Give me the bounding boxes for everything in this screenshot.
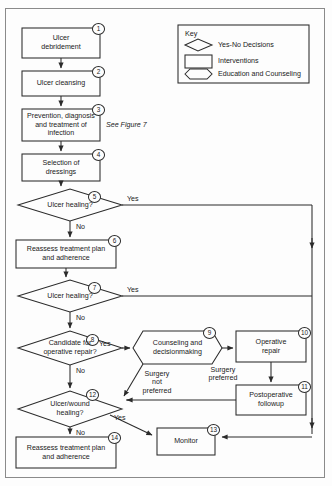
surgery-preferred-line1: Surgery — [198, 366, 248, 374]
node-1-shape — [22, 28, 100, 58]
edge-label-no-12: No — [76, 429, 85, 437]
node-14-shape — [16, 437, 116, 468]
node-13-shape — [157, 428, 215, 455]
node-5-number: 5 — [88, 191, 101, 203]
node-1-number: 1 — [92, 23, 105, 35]
edge-label-yes-7: Yes — [127, 286, 139, 294]
node-10-shape — [236, 331, 306, 362]
see-figure-reference: See Figure 7 — [106, 121, 147, 129]
key-label-decisions: Yes-No Decisions — [218, 41, 274, 49]
node-7-shape — [18, 280, 122, 312]
node-6-shape — [16, 240, 116, 268]
surgery-preferred-line2: preferred — [198, 374, 248, 382]
node-4-number: 4 — [92, 149, 105, 161]
node-3-number: 3 — [92, 104, 105, 116]
node-5-shape — [18, 189, 122, 221]
node-2-number: 2 — [92, 66, 105, 78]
key-label-education: Education and Counseling — [218, 70, 301, 78]
node-6-number: 6 — [108, 235, 121, 247]
key-label-interventions: Interventions — [218, 57, 259, 65]
node-12-number: 12 — [86, 389, 99, 401]
edge-label-yes-5: Yes — [127, 195, 139, 203]
key-diamond-icon — [185, 39, 212, 51]
surgery-not-preferred-line2: not — [134, 378, 180, 386]
surgery-not-preferred-line1: Surgery — [134, 370, 180, 378]
figure-canvas: 1 2 3 4 5 6 7 8 9 10 11 12 13 14 Ulcer d… — [0, 0, 332, 486]
node-4-shape — [22, 154, 100, 181]
node-11-number: 11 — [298, 381, 311, 393]
edge-label-no-7: No — [76, 314, 85, 322]
edge-label-yes-12: Yes — [114, 414, 126, 422]
node-7-number: 7 — [88, 282, 101, 294]
node-14-number: 14 — [108, 432, 121, 444]
key-rect-icon — [185, 55, 212, 68]
edge-label-surgery-preferred: Surgery preferred — [198, 366, 248, 383]
edge-label-no-5: No — [76, 223, 85, 231]
surgery-not-preferred-line3: preferred — [134, 387, 180, 395]
node-9-number: 9 — [203, 327, 216, 339]
node-12-shape — [18, 391, 122, 427]
node-11-shape — [236, 385, 306, 415]
edge-label-no-8: No — [76, 367, 85, 375]
node-2-shape — [22, 71, 100, 96]
node-3-shape — [22, 109, 100, 141]
key-title: Key — [185, 29, 197, 38]
node-13-number: 13 — [207, 424, 220, 436]
node-8-number: 8 — [86, 334, 99, 346]
node-10-number: 10 — [298, 327, 311, 339]
edge-label-surgery-not-preferred: Surgery not preferred — [134, 370, 180, 395]
key-hexagon-icon — [185, 69, 212, 79]
edge-label-yes-8: Yes — [99, 340, 111, 348]
